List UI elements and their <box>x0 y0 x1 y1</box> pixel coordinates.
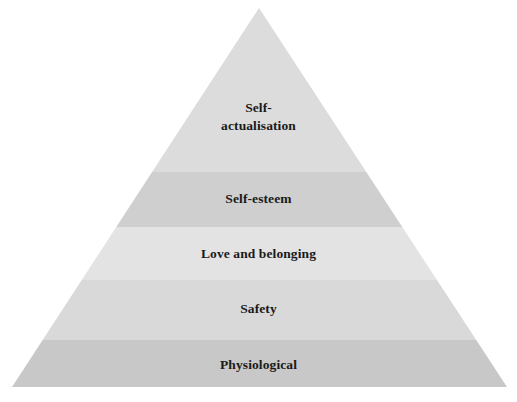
pyramid-band-self-esteem <box>0 172 517 227</box>
maslow-pyramid-diagram: Self- actualisation Self-esteem Love and… <box>0 0 517 402</box>
pyramid-band-love-and-belonging <box>0 227 517 280</box>
pyramid-band-physiological <box>0 340 517 387</box>
pyramid-graphic <box>0 0 517 402</box>
pyramid-band-self-actualisation <box>0 8 517 172</box>
pyramid-band-safety <box>0 280 517 340</box>
